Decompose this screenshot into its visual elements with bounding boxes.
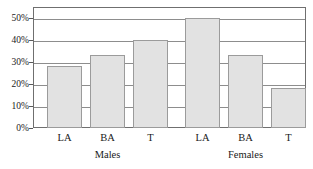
y-axis-tick-mark: [29, 128, 33, 129]
bars-layer: [33, 7, 306, 128]
y-axis-tick-label: 40%: [0, 35, 29, 45]
bar-chart: 0%10%20%30%40%50% LABATLABAT MalesFemale…: [0, 0, 313, 169]
y-axis-tick-mark: [29, 84, 33, 85]
bar: [133, 40, 168, 128]
y-axis-tick-mark: [29, 18, 33, 19]
x-axis-category-labels: LABATLABAT: [33, 131, 306, 145]
x-axis-category-label: BA: [84, 131, 131, 144]
y-axis-tick-label: 10%: [0, 101, 29, 111]
bar: [228, 55, 263, 128]
y-axis-tick-mark: [29, 106, 33, 107]
y-axis-tick-label: 30%: [0, 57, 29, 67]
bar: [271, 88, 306, 128]
x-axis-category-label: LA: [41, 131, 88, 144]
x-axis-group-labels: MalesFemales: [33, 148, 306, 164]
bar: [185, 18, 220, 128]
x-axis-group-label: Females: [206, 148, 286, 162]
y-axis-tick-label: 50%: [0, 13, 29, 23]
bar: [90, 55, 125, 128]
x-axis-category-label: BA: [222, 131, 269, 144]
x-axis-group-label: Males: [68, 148, 148, 162]
y-axis-tick-labels: 0%10%20%30%40%50%: [0, 7, 30, 128]
y-axis-tick-mark: [29, 40, 33, 41]
y-axis-tick-label: 0%: [0, 123, 29, 133]
y-axis-tick-label: 20%: [0, 79, 29, 89]
x-axis-category-label: T: [265, 131, 312, 144]
x-axis-category-label: T: [127, 131, 174, 144]
bar: [47, 66, 82, 128]
y-axis-tick-mark: [29, 62, 33, 63]
x-axis-category-label: LA: [179, 131, 226, 144]
